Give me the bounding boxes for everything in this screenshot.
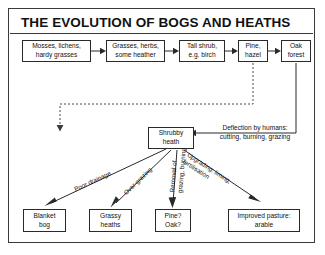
node-pine-hazel[interactable]: Pine, hazel (238, 40, 268, 62)
node-line: Grassy (100, 212, 121, 221)
node-mosses[interactable]: Mosses, lichens, hardy grasses (22, 40, 91, 62)
node-grassy-heaths[interactable]: Grassy heaths (89, 209, 132, 232)
node-blanket-bog[interactable]: Blanket bog (23, 209, 66, 232)
node-line: forest (288, 51, 305, 60)
node-line: hardy grasses (32, 51, 81, 60)
title-divider (10, 33, 313, 34)
deflection-note-line: cutting, burning, grazing (196, 133, 314, 142)
node-line: bog (34, 221, 56, 230)
node-tall-shrub[interactable]: Tall shrub, e.g. birch (179, 40, 225, 62)
node-line: hazel (245, 51, 261, 60)
node-pine-oak[interactable]: Pine? Oak? (155, 209, 191, 232)
deflection-note: Deflection by humans: cutting, burning, … (196, 124, 314, 142)
node-line: arable (237, 221, 290, 230)
node-line: Tall shrub, (187, 42, 217, 51)
node-line: Blanket (34, 212, 56, 221)
node-line: some heather (112, 51, 159, 60)
deflection-note-line: Deflection by humans: (196, 124, 314, 133)
node-shrubby-heath[interactable]: Shrubby heath (148, 127, 194, 149)
node-line: heath (159, 138, 184, 147)
node-line: Improved pasture: (237, 212, 290, 221)
node-oak-forest[interactable]: Oak forest (281, 40, 311, 62)
node-line: Grasses, herbs, (112, 42, 159, 51)
node-line: Mosses, lichens, (32, 42, 81, 51)
node-line: Oak? (165, 221, 182, 230)
node-grasses[interactable]: Grasses, herbs, some heather (106, 40, 165, 62)
node-line: Pine, (245, 42, 261, 51)
node-line: e.g. birch (187, 51, 217, 60)
node-line: Shrubby (159, 129, 184, 138)
node-line: Oak (288, 42, 305, 51)
node-line: Pine? (165, 212, 182, 221)
node-improved-pasture[interactable]: Improved pasture: arable (228, 209, 300, 232)
diagram-title: THE EVOLUTION OF BOGS AND HEATHS (14, 12, 309, 32)
diagram-canvas: THE EVOLUTION OF BOGS AND HEATHS (0, 0, 325, 255)
node-line: heaths (100, 221, 121, 230)
